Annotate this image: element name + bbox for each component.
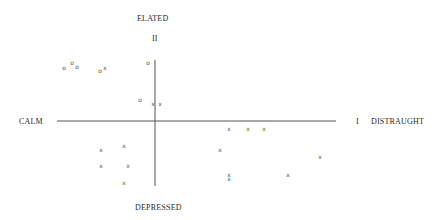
- data-points: ooooooxxxxxxxxxxxxxxxx: [62, 59, 322, 186]
- circle-marker: o: [146, 59, 150, 66]
- cross-marker: x: [262, 125, 266, 132]
- cross-marker: x: [103, 64, 107, 71]
- cross-marker: x: [246, 125, 250, 132]
- scatter-plot: ooooooxxxxxxxxxxxxxxxx: [0, 0, 438, 220]
- x-positive-label: DISTRAUGHT: [371, 117, 424, 126]
- cross-marker: x: [227, 175, 231, 182]
- cross-marker: x: [158, 100, 162, 107]
- cross-marker: x: [286, 171, 290, 178]
- cross-marker: x: [318, 153, 322, 160]
- circle-marker: o: [75, 63, 79, 70]
- y-negative-label: DEPRESSED: [135, 203, 182, 212]
- y-positive-marker: II: [152, 34, 158, 43]
- circle-marker: o: [138, 96, 142, 103]
- y-positive-label: ELATED: [137, 14, 168, 23]
- x-negative-label: CALM: [19, 117, 43, 126]
- circle-marker: o: [70, 59, 74, 66]
- circle-marker: o: [62, 64, 66, 71]
- cross-marker: x: [218, 146, 222, 153]
- x-positive-marker: I: [356, 117, 359, 126]
- cross-marker: x: [122, 142, 126, 149]
- circle-marker: o: [98, 67, 102, 74]
- cross-marker: x: [126, 162, 130, 169]
- cross-marker: x: [122, 179, 126, 186]
- cross-marker: x: [151, 100, 155, 107]
- cross-marker: x: [227, 125, 231, 132]
- cross-marker: x: [99, 146, 103, 153]
- cross-marker: x: [99, 162, 103, 169]
